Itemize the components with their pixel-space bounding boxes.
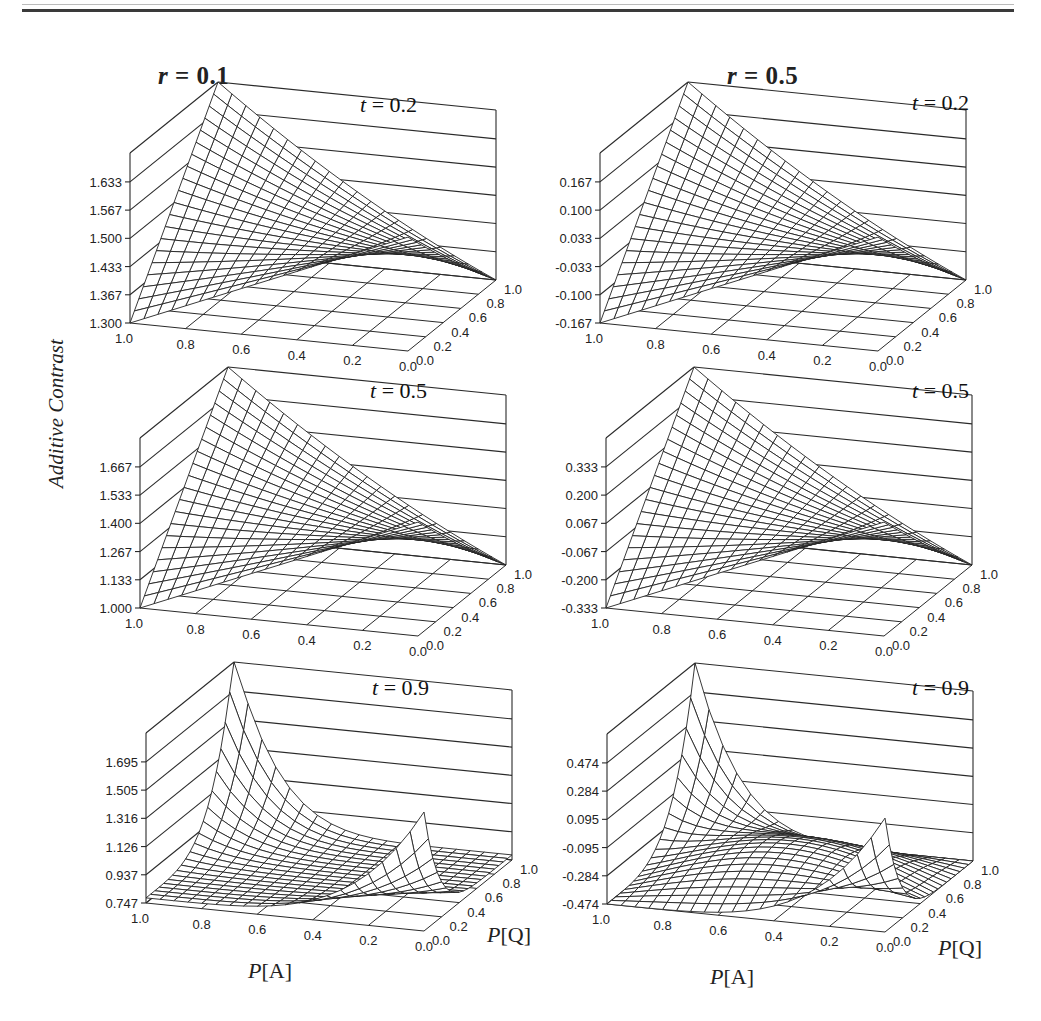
z-tick-label: -0.333 [561, 601, 598, 616]
z-tick-label: 1.500 [89, 231, 122, 246]
z-tick-label: 0.333 [565, 460, 598, 475]
z-tick-label: 1.400 [99, 516, 132, 531]
x-tick-label: 0.6 [708, 627, 726, 642]
z-tick-label: 1.633 [89, 175, 122, 190]
x-tick-label: 0.8 [653, 622, 671, 637]
x-tick-label: 0.0 [415, 939, 433, 954]
z-tick-label: -0.067 [561, 545, 598, 560]
x-tick-label: 0.8 [187, 622, 205, 637]
q-tick-label: 0.8 [956, 296, 974, 311]
x-tick-label: 0.4 [764, 633, 782, 648]
q-tick-label: 0.6 [939, 310, 957, 325]
z-tick-label: 1.567 [89, 203, 122, 218]
q-tick-label: 0.8 [496, 581, 514, 596]
z-tick-label: -0.167 [555, 316, 592, 331]
x-tick-label: 0.0 [875, 644, 893, 659]
panel-label: t = 0.9 [912, 675, 969, 700]
x-tick-label: 1.0 [125, 616, 143, 631]
panel-label: t = 0.9 [372, 675, 429, 700]
x-tick-label: 0.0 [409, 644, 427, 659]
q-tick-label: 0.2 [434, 339, 452, 354]
x-tick-label: 1.0 [591, 616, 609, 631]
x-tick-label: 0.8 [177, 337, 195, 352]
z-tick-label: -0.100 [555, 288, 592, 303]
x-tick-label: 0.2 [353, 638, 371, 653]
x-tick-label: 0.6 [242, 627, 260, 642]
q-tick-label: 0.2 [904, 339, 922, 354]
x-tick-label: 0.2 [359, 933, 377, 948]
z-tick-label: 1.695 [105, 755, 138, 770]
q-tick-label: 0.4 [467, 905, 485, 920]
x-tick-label: 0.2 [820, 934, 838, 949]
x-tick-label: 0.4 [298, 633, 316, 648]
q-tick-label: 0.4 [921, 325, 939, 340]
x-tick-label: 1.0 [592, 912, 610, 927]
z-tick-label: 1.533 [99, 488, 132, 503]
z-tick-label: 1.267 [99, 545, 132, 560]
q-tick-label: 0.6 [946, 891, 964, 906]
z-tick-label: 0.284 [566, 784, 599, 799]
q-tick-label: 0.8 [963, 877, 981, 892]
q-tick-label: 0.2 [910, 624, 928, 639]
x-tick-label: 1.0 [115, 331, 133, 346]
q-tick-label: 0.8 [502, 876, 520, 891]
q-tick-label: 0.2 [450, 919, 468, 934]
q-tick-label: 0.0 [892, 638, 910, 653]
q-tick-label: 0.4 [928, 906, 946, 921]
z-tick-label: 0.095 [566, 812, 599, 827]
q-tick-label: 0.6 [469, 310, 487, 325]
z-tick-label: -0.284 [562, 869, 599, 884]
z-tick-label: 1.367 [89, 288, 122, 303]
q-tick-label: 1.0 [981, 863, 999, 878]
surface-plot: -0.167-0.100-0.0330.0330.1000.1671.00.80… [555, 82, 992, 374]
x-tick-label: 0.2 [819, 638, 837, 653]
q-tick-label: 0.0 [416, 353, 434, 368]
x-tick-label: 0.8 [647, 337, 665, 352]
z-tick-label: 1.667 [99, 460, 132, 475]
z-tick-label: 1.000 [99, 601, 132, 616]
q-tick-label: 0.0 [432, 933, 450, 948]
z-tick-label: 1.505 [105, 783, 138, 798]
x-tick-label: 0.4 [288, 348, 306, 363]
q-tick-label: 1.0 [514, 567, 532, 582]
panel-label: t = 0.5 [912, 378, 969, 403]
q-tick-label: 0.8 [486, 296, 504, 311]
q-axis-name-left: P[Q] [487, 922, 531, 948]
x-tick-label: 0.6 [702, 342, 720, 357]
panel-label: t = 0.2 [360, 92, 417, 117]
z-tick-label: 0.033 [559, 231, 592, 246]
panel-label: t = 0.5 [370, 378, 427, 403]
x-tick-label: 0.4 [758, 348, 776, 363]
x-tick-label: 0.8 [193, 917, 211, 932]
z-tick-label: -0.200 [561, 573, 598, 588]
z-tick-label: 1.133 [99, 573, 132, 588]
x-tick-label: 0.0 [876, 940, 894, 955]
q-tick-label: 1.0 [520, 862, 538, 877]
q-tick-label: 1.0 [980, 567, 998, 582]
surface-plot-r01-t02: 1.3001.3671.4331.5001.5671.6331.00.80.60… [0, 0, 1041, 1021]
x-tick-label: 0.4 [765, 929, 783, 944]
q-tick-label: 0.8 [962, 581, 980, 596]
q-axis-name-right: P[Q] [938, 935, 982, 961]
x-tick-label: 0.2 [813, 353, 831, 368]
x-axis-name-left: P[A] [248, 958, 292, 984]
q-tick-label: 0.6 [479, 595, 497, 610]
x-tick-label: 0.2 [343, 353, 361, 368]
x-tick-label: 0.6 [709, 923, 727, 938]
surface-plot: -0.474-0.284-0.0950.0950.2840.4741.00.80… [562, 663, 999, 955]
q-tick-label: 1.0 [504, 282, 522, 297]
x-tick-label: 0.6 [248, 922, 266, 937]
surface-plot: 1.0001.1331.2671.4001.5331.6671.00.80.60… [99, 367, 532, 659]
z-tick-label: 0.747 [105, 896, 138, 911]
z-tick-label: -0.474 [562, 897, 599, 912]
q-tick-label: 0.2 [444, 624, 462, 639]
z-tick-label: 0.937 [105, 868, 138, 883]
surface-plot: 1.3001.3671.4331.5001.5671.6331.00.80.60… [89, 82, 522, 374]
q-tick-label: 0.6 [485, 890, 503, 905]
q-tick-label: 0.6 [945, 595, 963, 610]
q-tick-label: 0.4 [451, 325, 469, 340]
q-tick-label: 0.4 [927, 610, 945, 625]
z-tick-label: -0.095 [562, 841, 599, 856]
q-tick-label: 0.4 [461, 610, 479, 625]
x-tick-label: 0.8 [654, 918, 672, 933]
